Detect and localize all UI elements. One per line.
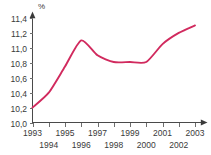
x-axis-tick-label: 1995 bbox=[56, 128, 75, 138]
x-axis-tick-label: 1993 bbox=[23, 128, 42, 138]
y-axis-tick-label: 11,2 bbox=[11, 29, 27, 39]
line-chart: % 10,010,210,410,610,811,011,211,4 19931… bbox=[0, 0, 211, 155]
x-axis-tick-labels-upper: 199319951997199920012003 bbox=[23, 128, 205, 138]
x-axis-tick-marks bbox=[34, 123, 196, 127]
x-axis-tick-labels-lower: 19941996199820002002 bbox=[39, 140, 188, 150]
data-series-line bbox=[33, 25, 196, 107]
x-axis-group bbox=[33, 120, 208, 126]
x-axis-tick-label: 1999 bbox=[121, 128, 140, 138]
x-axis-tick-label: 2000 bbox=[137, 140, 156, 150]
x-axis-tick-label: 1997 bbox=[88, 128, 107, 138]
y-axis-tick-label: 11,4 bbox=[11, 14, 27, 24]
x-axis-tick-label: 1994 bbox=[39, 140, 58, 150]
x-axis-arrow-icon bbox=[201, 120, 208, 126]
y-axis-tick-label: 10,8 bbox=[10, 59, 27, 69]
y-axis-tick-label: 10,4 bbox=[10, 89, 27, 99]
y-axis-tick-label: 10,2 bbox=[10, 104, 27, 114]
x-axis-tick-label: 2001 bbox=[153, 128, 172, 138]
y-axis-arrow-icon bbox=[30, 12, 36, 19]
y-axis-tick-label: 11,0 bbox=[11, 44, 27, 54]
y-axis-tick-labels: 10,010,210,410,610,811,011,211,4 bbox=[10, 14, 27, 129]
y-axis-tick-label: 10,6 bbox=[10, 74, 27, 84]
x-axis-tick-label: 2003 bbox=[186, 128, 205, 138]
chart-canvas: % 10,010,210,410,610,811,011,211,4 19931… bbox=[0, 0, 211, 155]
x-axis-tick-label: 1998 bbox=[104, 140, 123, 150]
y-axis-unit-label: % bbox=[38, 2, 45, 11]
x-axis-tick-label: 1996 bbox=[72, 140, 91, 150]
x-axis-tick-label: 2002 bbox=[169, 140, 188, 150]
